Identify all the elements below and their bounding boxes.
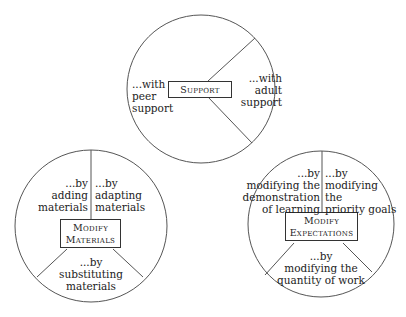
- expectations-segment-priority-goals: ...by modifying the priority goals: [325, 167, 396, 215]
- support-segment-peer: ...with peer support: [132, 78, 173, 114]
- expectations-segment-quantity: ...by modifying the quantity of work: [266, 250, 376, 286]
- expectations-segment-demonstration: ...by modifying the demonstration of lea…: [242, 167, 320, 215]
- materials-center-label: Modify Materials: [60, 219, 121, 248]
- support-segment-adult: ...with adult support: [241, 72, 282, 108]
- materials-segment-substituting: ...by substituting materials: [41, 256, 141, 292]
- materials-segment-adding: ...by adding materials: [38, 177, 88, 213]
- support-center-label: Support: [168, 81, 232, 98]
- expectations-center-label: Modify Expectations: [285, 212, 358, 241]
- materials-segment-adapting: ...by adapting materials: [95, 177, 145, 213]
